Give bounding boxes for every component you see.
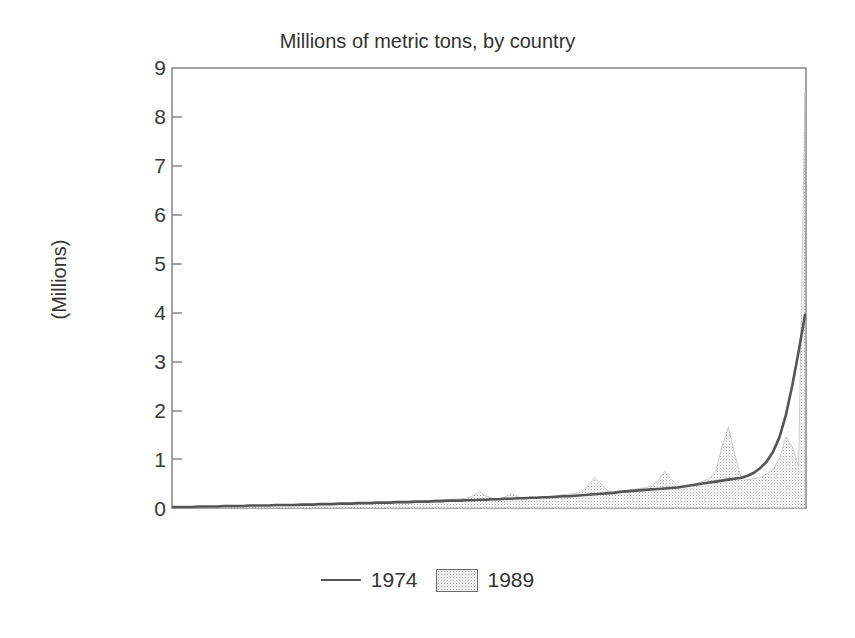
series-1989-area — [173, 92, 805, 508]
legend-entry-1989: 1989 — [436, 568, 535, 592]
legend-entry-1974: 1974 — [321, 568, 418, 592]
plot-frame — [172, 68, 806, 508]
legend-area-swatch-icon — [436, 569, 478, 592]
plot-canvas — [0, 0, 855, 638]
legend-label-1974: 1974 — [371, 568, 418, 592]
y-axis-ticks — [172, 117, 182, 459]
legend-line-swatch-icon — [321, 579, 361, 581]
legend-label-1989: 1989 — [488, 568, 535, 592]
chart-legend: 1974 1989 — [0, 568, 855, 592]
chart-figure: Millions of metric tons, by country (Mil… — [0, 0, 855, 638]
